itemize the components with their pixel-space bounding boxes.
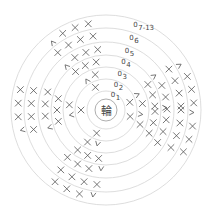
chain-start-icon: 0 xyxy=(111,91,115,99)
single-crochet-symbol xyxy=(127,113,133,119)
single-crochet-symbol xyxy=(137,121,143,127)
single-crochet-symbol xyxy=(85,152,91,158)
single-crochet-symbol xyxy=(81,179,87,185)
round-label-1: 01 xyxy=(111,91,120,102)
single-crochet-symbol xyxy=(17,87,23,93)
single-crochet-symbol xyxy=(92,84,98,90)
single-crochet-symbol xyxy=(52,179,58,185)
single-crochet-symbol xyxy=(150,92,156,98)
single-crochet-symbol xyxy=(15,100,21,106)
chain-start-icon: 0 xyxy=(114,81,118,89)
single-crochet-symbol xyxy=(45,89,51,95)
single-crochet-symbol xyxy=(184,73,190,79)
single-crochet-symbol xyxy=(76,191,82,197)
round-label-6: 06 xyxy=(129,34,139,45)
single-crochet-symbol xyxy=(159,82,165,88)
single-crochet-symbol xyxy=(191,100,197,106)
single-crochet-symbol xyxy=(90,33,96,39)
single-crochet-symbol xyxy=(65,42,71,48)
single-crochet-symbol xyxy=(31,126,37,132)
single-crochet-symbol xyxy=(83,49,89,55)
single-crochet-symbol xyxy=(75,161,81,167)
round-number: 4 xyxy=(126,61,131,69)
single-crochet-symbol xyxy=(186,136,192,142)
single-crochet-symbol xyxy=(180,149,186,155)
single-crochet-symbol xyxy=(94,181,100,187)
increase-symbol xyxy=(138,112,142,117)
round-number: 5 xyxy=(130,50,134,58)
single-crochet-symbol xyxy=(69,174,75,180)
round-number: 7-13 xyxy=(138,24,154,32)
increase-symbol xyxy=(20,127,25,131)
single-crochet-symbol xyxy=(85,21,91,27)
single-crochet-symbol xyxy=(152,108,158,114)
single-crochet-symbol xyxy=(94,130,100,136)
single-crochet-symbol xyxy=(28,100,34,106)
single-crochet-symbol xyxy=(75,147,81,153)
single-crochet-symbol xyxy=(139,101,145,107)
single-crochet-symbol xyxy=(72,55,78,61)
single-crochet-symbol xyxy=(64,186,70,192)
center-ring: 輪 xyxy=(95,99,117,121)
round-number: 2 xyxy=(119,84,123,92)
increase-symbol xyxy=(134,94,139,98)
increase-symbol xyxy=(86,79,90,84)
single-crochet-symbol xyxy=(42,113,48,119)
single-crochet-symbol xyxy=(55,96,61,102)
single-crochet-symbol xyxy=(84,139,90,145)
single-crochet-symbol xyxy=(146,130,152,136)
single-crochet-symbol xyxy=(66,102,72,108)
round-number: 6 xyxy=(134,37,139,45)
chain-start-icon: 0 xyxy=(129,34,133,42)
single-crochet-symbol xyxy=(54,107,60,113)
single-crochet-symbol xyxy=(82,63,88,69)
single-crochet-symbol xyxy=(28,114,34,120)
increase-symbol xyxy=(48,125,53,129)
single-crochet-symbol xyxy=(150,120,156,126)
increase-symbol xyxy=(91,192,96,197)
increase-symbol xyxy=(190,110,194,115)
single-crochet-symbol xyxy=(96,155,102,161)
single-crochet-symbol xyxy=(64,154,70,160)
round-number: 3 xyxy=(122,73,126,81)
single-crochet-symbol xyxy=(93,59,99,65)
increase-symbol xyxy=(51,41,55,46)
chain-start-icon: 0 xyxy=(117,70,121,78)
single-crochet-symbol xyxy=(172,78,178,84)
increase-symbol xyxy=(99,166,104,170)
round-number: 1 xyxy=(116,94,120,102)
single-crochet-symbol xyxy=(177,120,183,126)
single-crochet-symbol xyxy=(155,139,161,145)
single-crochet-symbol xyxy=(77,37,83,43)
single-crochet-symbol xyxy=(152,103,158,109)
chain-start-icon: 0 xyxy=(125,47,129,55)
single-crochet-symbol xyxy=(168,145,174,151)
single-crochet-symbol xyxy=(58,167,64,173)
single-crochet-symbol xyxy=(92,72,98,78)
single-crochet-symbol xyxy=(178,107,184,113)
increase-symbol xyxy=(69,112,73,117)
single-crochet-symbol xyxy=(160,129,166,135)
single-crochet-symbol xyxy=(163,117,169,123)
increase-symbol xyxy=(176,64,181,68)
increase-symbol xyxy=(151,75,156,79)
single-crochet-symbol xyxy=(95,47,101,53)
crochet-chart: 01020304050607-13 輪 xyxy=(0,0,212,220)
single-crochet-symbol xyxy=(176,90,182,96)
single-crochet-symbol xyxy=(55,50,61,56)
single-crochet-symbol xyxy=(73,69,79,75)
single-crochet-symbol xyxy=(55,118,61,124)
single-crochet-symbol xyxy=(189,86,195,92)
single-crochet-symbol xyxy=(166,66,172,72)
single-crochet-symbol xyxy=(86,166,92,172)
single-crochet-symbol xyxy=(173,133,179,139)
single-crochet-symbol xyxy=(145,81,151,87)
round-label-5: 05 xyxy=(125,47,134,58)
chain-start-icon: 0 xyxy=(121,58,125,66)
single-crochet-symbol xyxy=(15,114,21,120)
single-crochet-symbol xyxy=(72,25,78,31)
single-crochet-symbol xyxy=(163,94,169,100)
single-crochet-symbol xyxy=(31,88,37,94)
chain-start-icon: 0 xyxy=(133,21,137,29)
increase-symbol xyxy=(96,141,100,146)
